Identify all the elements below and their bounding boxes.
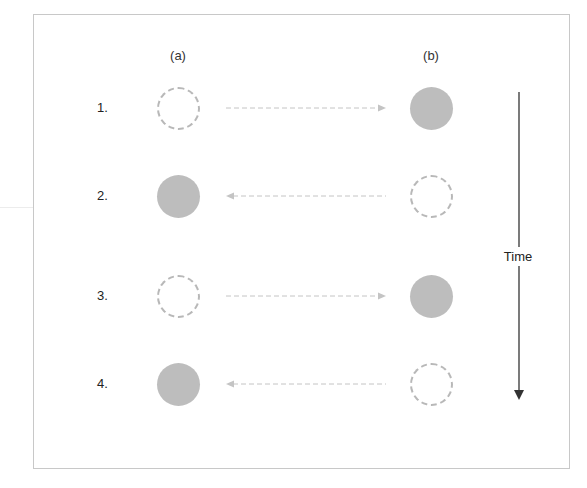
dashed-arrow-right-icon <box>226 103 386 113</box>
filled-circle-b-3 <box>410 275 453 318</box>
dashed-circle-b-2 <box>410 175 453 218</box>
column-label-b: (b) <box>423 48 439 63</box>
dashed-circle-b-4 <box>410 363 453 406</box>
dashed-arrow-left-icon <box>226 191 386 201</box>
diagram-frame <box>33 14 570 469</box>
figure-caption <box>0 478 587 488</box>
background-line <box>0 207 33 208</box>
filled-circle-b-1 <box>410 87 453 130</box>
row-label-2: 2. <box>97 188 108 203</box>
time-label: Time <box>501 247 535 266</box>
column-label-a: (a) <box>170 48 186 63</box>
dashed-circle-a-3 <box>157 275 200 318</box>
dashed-arrow-left-icon <box>226 379 386 389</box>
row-label-4: 4. <box>97 376 108 391</box>
filled-circle-a-2 <box>157 175 200 218</box>
row-label-1: 1. <box>97 100 108 115</box>
row-label-3: 3. <box>97 288 108 303</box>
dashed-circle-a-1 <box>157 87 200 130</box>
dashed-arrow-right-icon <box>226 291 386 301</box>
filled-circle-a-4 <box>157 363 200 406</box>
